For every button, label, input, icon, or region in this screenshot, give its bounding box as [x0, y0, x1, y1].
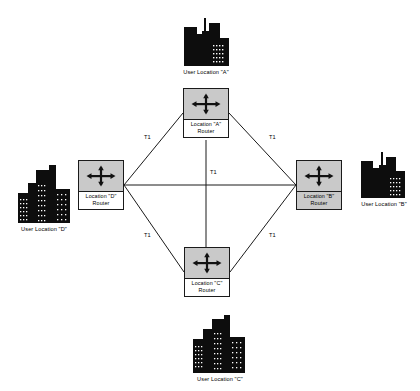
router-four-way-arrow-icon	[191, 93, 221, 115]
user-location-a-label: User Location "A"	[166, 68, 246, 76]
router-icon-a-container	[184, 89, 228, 120]
router-label-a-line1: Location "A"	[191, 121, 222, 127]
router-label-d: Location "D" Router	[79, 192, 123, 209]
router-label-b-line2: Router	[297, 200, 341, 207]
router-node-b[interactable]: Location "B" Router	[296, 160, 342, 210]
link-label-c-b: T1	[268, 232, 277, 239]
link-label-d-b: T1	[209, 169, 218, 176]
router-label-c: Location "C" Router	[185, 279, 229, 296]
router-label-b: Location "B" Router	[297, 192, 341, 209]
link-line-a-b	[229, 113, 296, 185]
router-label-c-line2: Router	[185, 287, 229, 294]
router-label-a-line2: Router	[184, 128, 228, 135]
router-node-c[interactable]: Location "C" Router	[184, 247, 230, 297]
user-location-a: User Location "A"	[166, 14, 246, 76]
link-line-d-c	[124, 185, 184, 272]
user-location-b-label: User Location "B"	[348, 200, 420, 208]
router-node-d[interactable]: Location "D" Router	[78, 160, 124, 210]
router-label-b-line1: Location "B"	[304, 193, 335, 199]
router-four-way-arrow-icon	[192, 252, 222, 274]
router-label-d-line1: Location "D"	[86, 193, 117, 199]
user-location-d-label: User Location "D"	[6, 225, 82, 233]
user-location-c: User Location "C"	[180, 313, 260, 383]
router-label-c-line1: Location "C"	[192, 280, 223, 286]
user-location-b: User Location "B"	[348, 150, 420, 208]
router-four-way-arrow-icon	[304, 165, 334, 187]
link-line-d-a	[124, 113, 183, 185]
router-icon-d-container	[79, 161, 123, 192]
link-line-c-b	[230, 185, 296, 272]
router-label-a: Location "A" Router	[184, 120, 228, 137]
user-location-c-label: User Location "C"	[180, 375, 260, 383]
router-icon-c-container	[185, 248, 229, 279]
router-four-way-arrow-icon	[86, 165, 116, 187]
router-label-d-line2: Router	[79, 200, 123, 207]
link-label-d-c: T1	[143, 232, 152, 239]
router-icon-b-container	[297, 161, 341, 192]
network-diagram-canvas: T1 T1 T1 T1 T1 Location "A" Router	[0, 0, 420, 391]
city-skyline-icon	[191, 313, 249, 373]
city-skyline-icon	[16, 163, 72, 223]
city-skyline-icon	[178, 14, 234, 66]
router-node-a[interactable]: Location "A" Router	[183, 88, 229, 138]
link-label-d-a: T1	[143, 134, 152, 141]
city-skyline-icon	[358, 150, 410, 198]
user-location-d: User Location "D"	[6, 163, 82, 233]
link-label-a-b: T1	[268, 134, 277, 141]
